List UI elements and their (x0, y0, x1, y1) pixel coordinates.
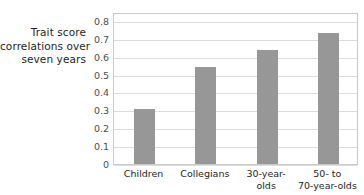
y-axis-tick-labels: 00.10.20.30.40.50.60.70.8 (86, 13, 111, 165)
x-axis-tick-label: Collegians (174, 168, 235, 180)
y-axis-tick-label: 0.5 (94, 71, 109, 81)
gridline (114, 22, 357, 23)
bar (195, 67, 216, 164)
y-axis-tick-label: 0.4 (94, 88, 109, 98)
y-axis-tick-label: 0.1 (94, 142, 109, 152)
x-axis-tick-label: 30-year-olds (236, 168, 297, 191)
plot-area (113, 13, 358, 165)
x-axis-tick-label-line: Collegians (174, 168, 235, 180)
bar (134, 109, 155, 164)
x-axis-tick-label-line: 70-year-olds (297, 180, 358, 192)
x-axis-tick-label-line: olds (236, 180, 297, 192)
y-axis-tick-label: 0.8 (94, 17, 109, 27)
y-axis-title-line-1: Trait score (0, 26, 86, 40)
y-axis-tick-label: 0 (103, 160, 109, 170)
x-axis-tick-label: Children (113, 168, 174, 180)
bar (318, 33, 339, 164)
bar-chart-figure: Trait score correlations over seven year… (0, 0, 364, 195)
x-axis-tick-label-line: Children (113, 168, 174, 180)
y-axis-title: Trait score correlations over seven year… (0, 26, 86, 67)
x-axis-tick-label: 50- to70-year-olds (297, 168, 358, 191)
y-axis-tick-label: 0.3 (94, 106, 109, 116)
y-axis-title-line-3: seven years (0, 53, 86, 67)
x-axis-tick-labels: ChildrenCollegians30-year-olds50- to70-y… (113, 168, 358, 195)
bar (257, 50, 278, 164)
x-axis-tick-label-line: 50- to (297, 168, 358, 180)
gridline (114, 165, 357, 166)
x-axis-tick-label-line: 30-year- (236, 168, 297, 180)
y-axis-tick-label: 0.2 (94, 124, 109, 134)
y-axis-tick-label: 0.6 (94, 53, 109, 63)
y-axis-title-line-2: correlations over (0, 40, 86, 54)
y-axis-tick-label: 0.7 (94, 35, 109, 45)
